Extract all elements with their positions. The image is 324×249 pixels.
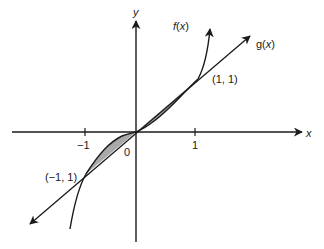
function-graph: y x 0 −1 1 f(x) g(x) (1, 1) (−1, 1) <box>0 0 324 249</box>
g-label-close: ) <box>271 38 275 50</box>
x-tick-label-neg1: −1 <box>77 139 90 151</box>
y-axis-label: y <box>132 6 140 18</box>
x-tick-label-1: 1 <box>192 139 198 151</box>
point-label-upper: (1, 1) <box>212 73 238 85</box>
g-label-prefix: g( <box>256 38 266 50</box>
f-label-close: ) <box>185 20 189 32</box>
shaded-region-right <box>136 79 198 132</box>
origin-label: 0 <box>124 146 130 158</box>
g-label: g(x) <box>256 38 275 50</box>
point-label-lower: (−1, 1) <box>45 171 77 183</box>
f-label: f(x) <box>173 20 189 32</box>
x-axis-label: x <box>305 127 312 139</box>
